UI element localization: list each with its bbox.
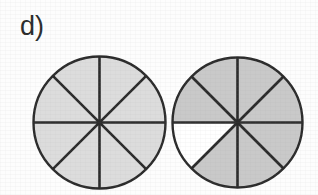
pie-right-center-dot bbox=[234, 119, 240, 125]
pie-right-svg bbox=[170, 55, 305, 190]
pie-left-center-dot bbox=[96, 119, 102, 125]
figure-label: d) bbox=[20, 11, 44, 41]
pie-left-svg bbox=[31, 54, 168, 191]
pie-chart-right bbox=[170, 55, 305, 190]
pie-chart-left bbox=[31, 54, 168, 191]
